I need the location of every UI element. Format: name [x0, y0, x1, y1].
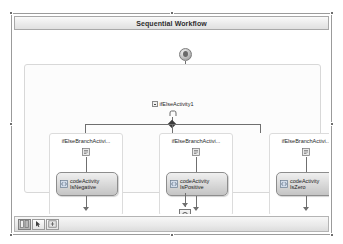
end-node[interactable]	[179, 209, 191, 214]
arrow-activity-to-merge	[83, 207, 89, 211]
collapse-all-button[interactable]	[32, 219, 45, 230]
workflow-title-bar[interactable]: Sequential Workflow	[14, 16, 329, 30]
end-node-inner	[182, 212, 188, 214]
arrow-activity-to-merge	[303, 207, 309, 211]
code-activity-node[interactable]: codeActivity IsZero	[276, 172, 329, 196]
ifelse-activity-container[interactable]: ifElseActivity1 ifElseBranchActivi...	[24, 64, 321, 193]
ifelse-branch-panel[interactable]: ifElseBranchActivi... codeActivity IsNeg…	[49, 133, 123, 214]
resize-handle-top-left[interactable]	[9, 11, 13, 15]
code-activity-line-2: IsPositive	[180, 184, 209, 190]
branch-condition-icon	[192, 148, 200, 156]
arrow-activity-to-merge	[193, 207, 199, 211]
connector-branch-to-activity	[196, 157, 197, 172]
resize-handle-bottom-left[interactable]	[9, 233, 13, 237]
arrow-ifelse-to-end	[182, 203, 188, 207]
ifelse-activity-label: ifElseActivity1	[160, 101, 194, 107]
ifelse-activity-header[interactable]: ifElseActivity1	[25, 101, 320, 107]
page-title: Sequential Workflow	[136, 20, 207, 27]
start-node[interactable]	[179, 48, 192, 61]
connector-split-to-branch-0	[85, 124, 86, 133]
code-activity-node[interactable]: codeActivity IsPositive	[166, 172, 228, 196]
ifelse-branch-panel[interactable]: ifElseBranchActivi... codeActivity IsZer…	[269, 133, 329, 214]
branch-condition-icon	[82, 148, 90, 156]
ifelse-icon	[169, 110, 177, 117]
connector-branch-to-activity	[306, 157, 307, 172]
branch-label: ifElseBranchActivi...	[160, 138, 232, 144]
resize-handle-top-right[interactable]	[330, 11, 334, 15]
ifelse-branch-panel[interactable]: ifElseBranchActivi... codeActivity IsPos…	[159, 133, 233, 214]
navigate-button[interactable]	[46, 219, 59, 230]
branch-label: ifElseBranchActivi...	[270, 138, 329, 144]
workflow-canvas[interactable]: ifElseActivity1 ifElseBranchActivi...	[14, 31, 329, 214]
expander-collapse-icon[interactable]	[152, 101, 158, 107]
workflow-designer-frame[interactable]: Sequential Workflow ifElseActivity1	[11, 13, 332, 235]
code-activity-line-2: IsNegative	[70, 184, 99, 190]
resize-handle-bottom-right[interactable]	[330, 233, 334, 237]
pointer-icon	[34, 220, 43, 228]
resize-handle-middle-right[interactable]	[330, 122, 334, 126]
designer-status-bar	[14, 216, 329, 232]
branch-condition-icon	[302, 148, 310, 156]
code-activity-icon	[170, 180, 178, 188]
pan-icon	[48, 220, 57, 228]
code-activity-node[interactable]: codeActivity IsNegative	[56, 172, 118, 196]
expand-all-icon	[20, 220, 29, 228]
code-activity-icon	[60, 180, 68, 188]
connector-split-to-branch-1	[172, 124, 173, 133]
branch-label: ifElseBranchActivi...	[50, 138, 122, 144]
code-activity-line-2: IsZero	[290, 184, 319, 190]
resize-handle-top-center[interactable]	[170, 11, 174, 15]
resize-handle-middle-left[interactable]	[9, 122, 13, 126]
resize-handle-bottom-center[interactable]	[170, 233, 174, 237]
connector-branch-to-activity	[86, 157, 87, 172]
code-activity-icon	[280, 180, 288, 188]
expand-all-button[interactable]	[18, 219, 31, 230]
connector-split-to-branch-2	[260, 124, 261, 133]
start-node-dot	[183, 51, 188, 57]
